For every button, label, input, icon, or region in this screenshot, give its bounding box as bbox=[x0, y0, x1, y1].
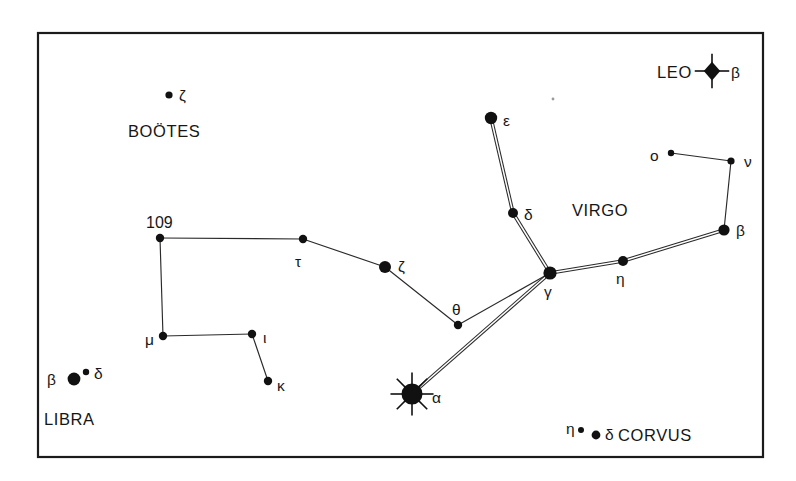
star-label: θ bbox=[452, 301, 461, 318]
star-label: ι bbox=[263, 329, 266, 346]
star-label: β bbox=[736, 222, 745, 239]
star-marker bbox=[83, 369, 89, 375]
star-marker bbox=[454, 321, 462, 329]
star-label: β bbox=[731, 64, 740, 81]
star-label: κ bbox=[277, 377, 285, 394]
star-marker bbox=[264, 377, 272, 385]
dust-speck bbox=[552, 98, 555, 101]
star-label: τ bbox=[295, 253, 301, 270]
star-marker bbox=[248, 330, 256, 338]
star-label: 109 bbox=[146, 214, 173, 231]
star-label: δ bbox=[94, 365, 103, 382]
sky-map: βζεονδβ109τζγηθμικβδαηδ LEOBOÖTESVIRGOLI… bbox=[0, 0, 796, 481]
star-label: γ bbox=[544, 283, 552, 300]
star-label: α bbox=[432, 389, 441, 406]
star-marker bbox=[165, 91, 172, 98]
star-label: ε bbox=[503, 112, 510, 129]
star-label: η bbox=[566, 420, 575, 437]
constellation-label-libra: LIBRA bbox=[44, 410, 95, 428]
star-marker bbox=[543, 266, 556, 279]
star-marker bbox=[668, 150, 674, 156]
star-label: ζ bbox=[398, 258, 405, 275]
star-label: β bbox=[47, 371, 56, 388]
star-marker bbox=[618, 256, 628, 266]
star-marker bbox=[156, 234, 164, 242]
star-marker bbox=[578, 427, 584, 433]
artifacts-layer bbox=[552, 98, 555, 101]
star-marker bbox=[718, 224, 729, 235]
star-marker bbox=[390, 372, 433, 415]
star-marker bbox=[379, 261, 391, 273]
star-marker bbox=[485, 112, 497, 124]
star-label: δ bbox=[605, 426, 614, 443]
constellation-label-bootes: BOÖTES bbox=[128, 122, 200, 140]
star-marker bbox=[727, 157, 734, 164]
star-label: ζ bbox=[179, 87, 186, 104]
star-label: δ bbox=[524, 206, 533, 223]
star-marker bbox=[299, 235, 307, 243]
star-marker bbox=[159, 332, 167, 340]
constellation-label-virgo: VIRGO bbox=[572, 201, 628, 219]
constellation-label-corvus: CORVUS bbox=[618, 426, 692, 444]
constellation-label-leo: LEO bbox=[657, 63, 692, 81]
star-label: ν bbox=[744, 153, 752, 170]
star-marker bbox=[508, 208, 518, 218]
star-marker bbox=[592, 431, 601, 440]
star-chart: βζεονδβ109τζγηθμικβδαηδ LEOBOÖTESVIRGOLI… bbox=[0, 0, 796, 481]
star-marker bbox=[68, 373, 81, 386]
star-label: ο bbox=[650, 147, 659, 164]
star-label: μ bbox=[145, 331, 154, 348]
star-label: η bbox=[616, 270, 625, 287]
